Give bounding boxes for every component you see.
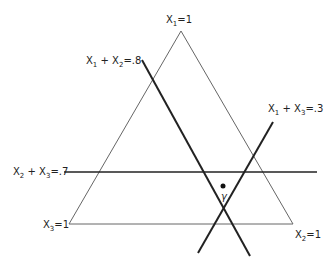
point-gamma-label: γ bbox=[221, 191, 228, 202]
simplex-diagram: X1=1 X3=1 X2=1 X1 + X2=.8 X1 + X3=.3 X2 … bbox=[0, 0, 332, 267]
constraint-line-x1-x3 bbox=[198, 122, 273, 253]
point-gamma-dot bbox=[221, 184, 226, 189]
vertex-label-top: X1=1 bbox=[166, 14, 192, 28]
constraint-line-x1-x2 bbox=[142, 60, 250, 256]
constraint-label-x2-x3: X2 + X3=.7 bbox=[13, 166, 68, 180]
vertex-label-bottom-left: X3=1 bbox=[43, 219, 69, 233]
constraint-label-x1-x3: X1 + X3=.3 bbox=[268, 103, 323, 117]
vertex-label-bottom-right: X2=1 bbox=[295, 229, 321, 243]
constraint-label-x1-x2: X1 + X2=.8 bbox=[86, 55, 141, 69]
